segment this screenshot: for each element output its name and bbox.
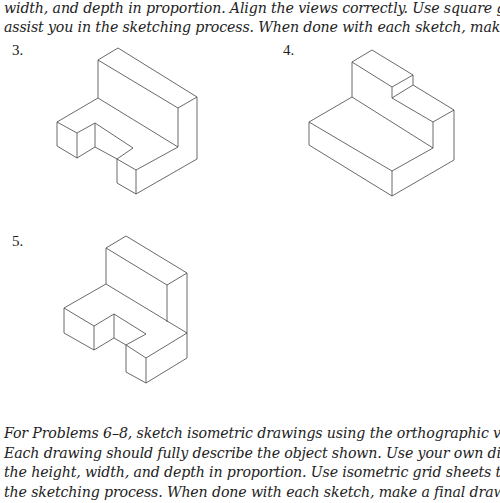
instructions-line: the height, width, and depth in proporti… [4, 463, 496, 483]
instructions-line: Each drawing should fully describe the o… [4, 444, 496, 464]
instructions-line: For Problems 6–8, sketch isometric drawi… [4, 424, 496, 444]
instructions-paragraph-bottom: For Problems 6–8, sketch isometric drawi… [4, 424, 496, 502]
instructions-line: the sketching process. When done with ea… [4, 483, 496, 503]
